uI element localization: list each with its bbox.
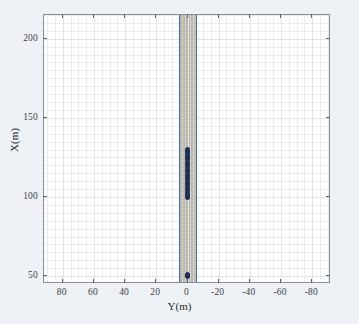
y-tick-mark <box>43 196 47 197</box>
x-tick-mark-top <box>93 14 94 18</box>
x-tick-mark-top <box>218 14 219 18</box>
x-tick-label: 40 <box>119 287 129 297</box>
x-tick-mark <box>62 279 63 283</box>
y-tick-label: 100 <box>8 191 38 201</box>
y-tick-label: 50 <box>8 270 38 280</box>
data-point-marker <box>185 272 190 277</box>
x-tick-mark <box>280 279 281 283</box>
x-tick-mark-top <box>311 14 312 18</box>
plot-area <box>43 14 330 283</box>
x-tick-mark-top <box>280 14 281 18</box>
x-tick-mark <box>93 279 94 283</box>
y-tick-mark <box>43 38 47 39</box>
y-tick-label: 150 <box>8 112 38 122</box>
x-tick-mark <box>249 279 250 283</box>
y-tick-mark-right <box>326 275 330 276</box>
y-tick-mark <box>43 275 47 276</box>
y-tick-mark <box>43 117 47 118</box>
trajectory-series <box>44 15 329 282</box>
x-tick-label: 80 <box>57 287 67 297</box>
x-tick-mark <box>124 279 125 283</box>
x-tick-mark-top <box>187 14 188 18</box>
x-tick-label: -20 <box>211 287 224 297</box>
y-axis-title: X(m) <box>8 128 20 152</box>
x-tick-label: 0 <box>184 287 189 297</box>
x-tick-mark <box>155 279 156 283</box>
x-tick-mark <box>311 279 312 283</box>
x-tick-label: -40 <box>242 287 255 297</box>
x-tick-label: 60 <box>88 287 98 297</box>
x-tick-label: -60 <box>273 287 286 297</box>
x-tick-label: 20 <box>150 287 160 297</box>
y-tick-mark-right <box>326 38 330 39</box>
x-tick-mark <box>187 279 188 283</box>
x-tick-mark-top <box>62 14 63 18</box>
x-tick-mark-top <box>155 14 156 18</box>
y-tick-label: 200 <box>8 33 38 43</box>
figure-canvas: 806040200-20-40-60-8050100150200 Y(m) X(… <box>0 0 359 324</box>
x-tick-mark <box>218 279 219 283</box>
x-tick-mark-top <box>249 14 250 18</box>
x-axis-title: Y(m) <box>0 300 359 312</box>
x-tick-label: -80 <box>305 287 318 297</box>
y-tick-mark-right <box>326 196 330 197</box>
x-tick-mark-top <box>124 14 125 18</box>
y-tick-mark-right <box>326 117 330 118</box>
